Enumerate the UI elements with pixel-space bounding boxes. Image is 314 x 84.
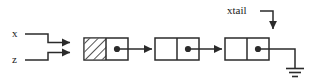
list-node-1-data-cell-hatched: [85, 39, 107, 60]
pointer-label-xtail: xtail: [227, 5, 247, 16]
pointer-label-z: z: [12, 54, 17, 65]
pointer-arrow-z: [25, 53, 70, 61]
diagram-canvas: [0, 0, 314, 84]
pointer-arrow-x: [25, 34, 70, 43]
linked-list-diagram: x z xtail: [0, 0, 314, 84]
ground-symbol-icon: [286, 69, 304, 77]
pointer-label-x: x: [12, 28, 18, 39]
pointer-arrow-xtail: [260, 11, 273, 29]
